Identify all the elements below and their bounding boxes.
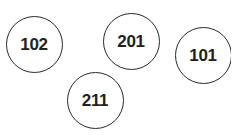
node-label: 211: [82, 92, 109, 109]
node-211: 211: [67, 72, 124, 129]
node-201: 201: [103, 13, 160, 70]
node-101: 101: [175, 27, 232, 84]
node-label: 201: [117, 33, 144, 50]
node-label: 102: [20, 36, 47, 53]
node-102: 102: [6, 16, 63, 73]
node-label: 101: [189, 47, 216, 64]
diagram-canvas: 102 201 101 211: [0, 0, 231, 135]
